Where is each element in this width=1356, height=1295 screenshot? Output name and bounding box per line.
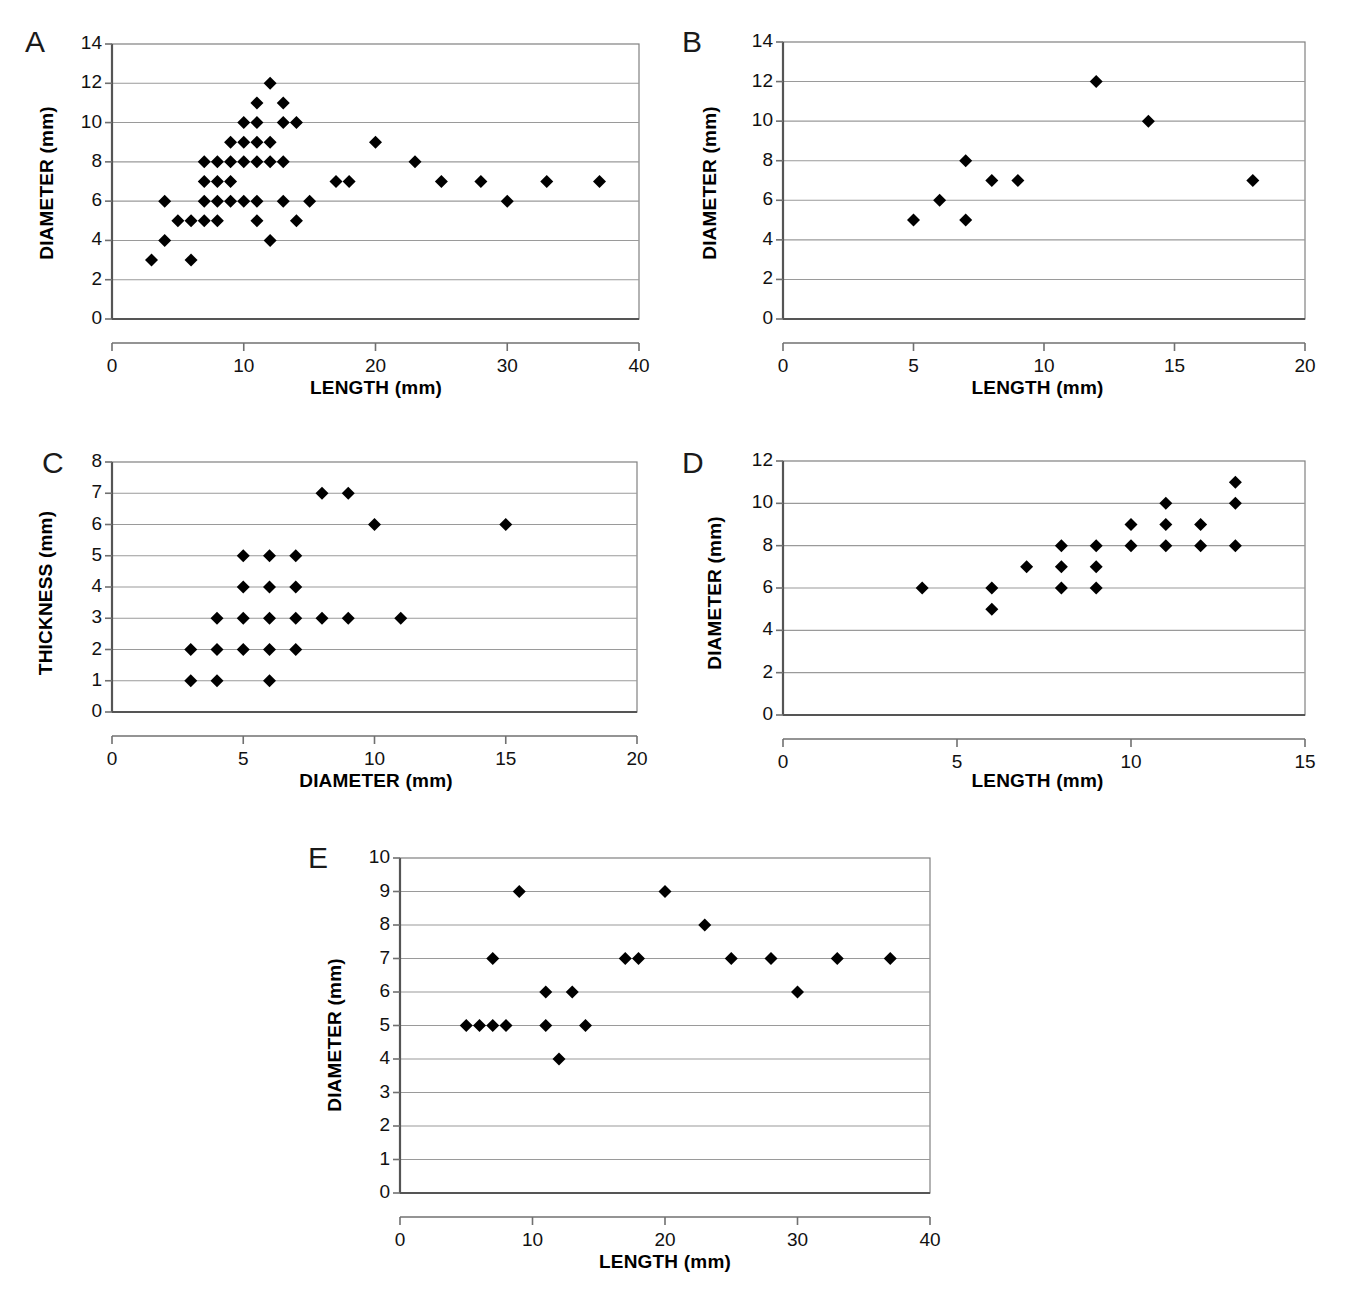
panel-e-plot [280, 818, 1040, 1295]
y-tick-label: 8 [342, 913, 390, 935]
x-tick-label: 0 [753, 355, 813, 377]
y-tick-label: 4 [342, 1047, 390, 1069]
x-tick-label: 10 [1101, 751, 1161, 773]
y-tick-label: 2 [54, 268, 102, 290]
x-tick-label: 15 [476, 748, 536, 770]
x-tick-label: 5 [927, 751, 987, 773]
y-tick-label: 2 [725, 267, 773, 289]
y-tick-label: 12 [54, 71, 102, 93]
x-tick-label: 30 [477, 355, 537, 377]
panel-b: B DIAMETER (mm) LENGTH (mm) 024681012140… [670, 0, 1356, 410]
y-tick-label: 6 [54, 513, 102, 535]
y-tick-label: 6 [54, 189, 102, 211]
y-tick-label: 10 [725, 109, 773, 131]
x-tick-label: 0 [82, 355, 142, 377]
y-tick-label: 12 [725, 449, 773, 471]
y-tick-label: 4 [725, 228, 773, 250]
y-tick-label: 4 [725, 618, 773, 640]
x-tick-label: 15 [1145, 355, 1205, 377]
y-tick-label: 10 [725, 491, 773, 513]
x-tick-label: 0 [753, 751, 813, 773]
x-tick-label: 15 [1275, 751, 1335, 773]
y-tick-label: 10 [342, 846, 390, 868]
x-tick-label: 40 [609, 355, 669, 377]
y-tick-label: 6 [725, 576, 773, 598]
y-tick-label: 0 [54, 700, 102, 722]
x-tick-label: 40 [900, 1229, 960, 1251]
x-tick-label: 5 [884, 355, 944, 377]
y-tick-label: 12 [725, 70, 773, 92]
x-tick-label: 30 [768, 1229, 828, 1251]
y-tick-label: 8 [54, 450, 102, 472]
y-tick-label: 14 [54, 32, 102, 54]
y-tick-label: 6 [342, 980, 390, 1002]
panel-d: D DIAMETER (mm) LENGTH (mm) 024681012051… [670, 425, 1356, 815]
x-tick-label: 10 [503, 1229, 563, 1251]
x-tick-label: 0 [370, 1229, 430, 1251]
x-tick-label: 0 [82, 748, 142, 770]
y-tick-label: 0 [54, 307, 102, 329]
y-tick-label: 0 [725, 703, 773, 725]
y-tick-label: 3 [54, 606, 102, 628]
plot-area-b [783, 42, 1305, 319]
y-tick-label: 4 [54, 228, 102, 250]
y-tick-label: 3 [342, 1081, 390, 1103]
y-tick-label: 2 [342, 1114, 390, 1136]
y-tick-label: 2 [54, 638, 102, 660]
x-tick-label: 20 [346, 355, 406, 377]
y-tick-label: 2 [725, 661, 773, 683]
y-tick-label: 8 [54, 150, 102, 172]
y-tick-label: 5 [342, 1014, 390, 1036]
x-tick-label: 5 [213, 748, 273, 770]
plot-area-a [112, 44, 639, 319]
y-tick-label: 4 [54, 575, 102, 597]
y-tick-label: 8 [725, 534, 773, 556]
y-tick-label: 0 [342, 1181, 390, 1203]
panel-e: E DIAMETER (mm) LENGTH (mm) 012345678910… [280, 818, 1040, 1295]
y-tick-label: 14 [725, 30, 773, 52]
y-tick-label: 0 [725, 307, 773, 329]
y-tick-label: 8 [725, 149, 773, 171]
x-tick-label: 20 [635, 1229, 695, 1251]
y-tick-label: 5 [54, 544, 102, 566]
x-tick-label: 10 [214, 355, 274, 377]
x-tick-label: 20 [1275, 355, 1335, 377]
y-tick-label: 10 [54, 111, 102, 133]
panel-a: A DIAMETER (mm) LENGTH (mm) 024681012140… [0, 0, 670, 410]
x-tick-label: 10 [1014, 355, 1074, 377]
y-tick-label: 9 [342, 880, 390, 902]
y-tick-label: 7 [54, 481, 102, 503]
y-tick-label: 1 [54, 669, 102, 691]
multi-panel-scatter-figure: A DIAMETER (mm) LENGTH (mm) 024681012140… [0, 0, 1356, 1295]
x-tick-label: 10 [345, 748, 405, 770]
x-tick-label: 20 [607, 748, 667, 770]
y-tick-label: 7 [342, 947, 390, 969]
panel-c: C THICKNESS (mm) DIAMETER (mm) 012345678… [0, 425, 670, 815]
y-tick-label: 6 [725, 188, 773, 210]
y-tick-label: 1 [342, 1148, 390, 1170]
